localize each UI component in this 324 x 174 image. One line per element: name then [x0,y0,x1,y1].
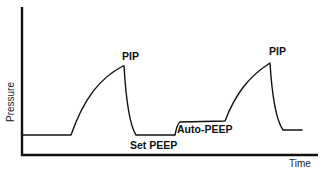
x-axis-label: Time [289,158,311,169]
y-axis-label: Pressure [5,82,16,122]
pip-label-2: PIP [269,45,286,57]
auto-peep-label: Auto-PEEP [177,123,232,135]
pip-label-1: PIP [122,50,139,62]
pressure-waveform [23,63,302,135]
set-peep-label: Set PEEP [130,139,177,151]
pressure-time-chart: PIP PIP Set PEEP Auto-PEEP Time Pressure [0,0,324,174]
